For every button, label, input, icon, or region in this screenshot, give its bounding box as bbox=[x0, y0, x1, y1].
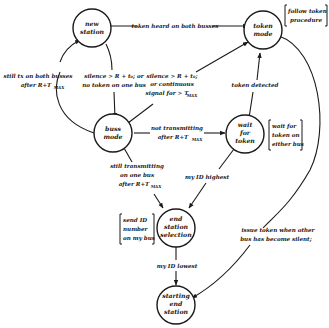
svg-text:token: token bbox=[235, 137, 255, 144]
edge-not-transmitting: not transmitting after R+T MAX bbox=[134, 125, 225, 142]
svg-text:token on: token on bbox=[272, 132, 300, 138]
node-end-station-selection: end station selection bbox=[157, 209, 195, 247]
svg-text:station: station bbox=[80, 28, 105, 35]
svg-text:for: for bbox=[239, 129, 251, 137]
edge-token-heard: token heard on both busses bbox=[101, 23, 248, 29]
node-buss-mode: buss mode bbox=[94, 114, 132, 152]
svg-text:send ID: send ID bbox=[123, 217, 147, 223]
svg-text:after R+T: after R+T bbox=[21, 82, 52, 89]
svg-text:new: new bbox=[85, 20, 99, 27]
svg-text:procedure: procedure bbox=[290, 17, 322, 24]
svg-text:still tx on both busses: still tx on both busses bbox=[4, 73, 74, 79]
node-token-mode: token mode bbox=[244, 11, 282, 49]
svg-text:wait for: wait for bbox=[272, 123, 297, 130]
svg-text:end: end bbox=[170, 215, 183, 222]
svg-text:after R+T: after R+T bbox=[119, 181, 150, 188]
svg-text:number: number bbox=[123, 226, 149, 232]
svg-text:MAX: MAX bbox=[53, 85, 66, 90]
svg-text:mode: mode bbox=[104, 133, 123, 140]
edge-still-tx-both-busses: still tx on both busses after R+T MAX bbox=[4, 40, 94, 133]
svg-text:my ID highest: my ID highest bbox=[185, 174, 229, 181]
node-wait-for-token: wait for token bbox=[226, 115, 264, 153]
state-diagram: token heard on both busses still tx on b… bbox=[0, 0, 329, 328]
svg-text:buss: buss bbox=[105, 125, 121, 132]
edge-issue-token: issue token when other bus has become si… bbox=[192, 36, 320, 298]
node-new-station: new station bbox=[73, 9, 111, 47]
svg-text:or continuous: or continuous bbox=[150, 81, 194, 87]
svg-text:MAX: MAX bbox=[191, 137, 204, 142]
node-starting-end-station: starting end station bbox=[157, 286, 195, 324]
svg-text:selection: selection bbox=[160, 231, 192, 238]
edge-silence-new-to-buss: silence > R + t₀; or no token on one bus bbox=[82, 44, 147, 118]
svg-text:token: token bbox=[253, 22, 273, 29]
svg-text:MAX: MAX bbox=[186, 93, 199, 98]
svg-text:token detected: token detected bbox=[232, 82, 279, 88]
svg-text:on one bus: on one bus bbox=[120, 172, 155, 178]
svg-text:end: end bbox=[170, 300, 183, 307]
edge-my-id-lowest: my ID lowest bbox=[157, 246, 198, 285]
edge-silence-buss-to-token: silence > R + t₀; or continuous signal f… bbox=[128, 42, 248, 123]
svg-text:on my bus: on my bus bbox=[123, 235, 156, 242]
note-send-id-number: send ID number on my bus bbox=[120, 214, 156, 244]
svg-text:MAX: MAX bbox=[150, 184, 163, 189]
edge-token-detected: token detected bbox=[232, 53, 279, 118]
svg-text:station: station bbox=[164, 223, 189, 230]
svg-text:mode: mode bbox=[254, 30, 273, 37]
svg-text:signal for > T: signal for > T bbox=[146, 90, 190, 97]
svg-text:silence > R + t₀;: silence > R + t₀; bbox=[147, 73, 198, 79]
svg-text:follow token: follow token bbox=[287, 8, 327, 15]
svg-text:my ID lowest: my ID lowest bbox=[157, 263, 198, 270]
svg-text:token heard on both busses: token heard on both busses bbox=[132, 23, 220, 29]
svg-text:not transmitting: not transmitting bbox=[151, 125, 203, 132]
svg-text:either bus: either bus bbox=[272, 141, 305, 147]
svg-text:bus has become silent;: bus has become silent; bbox=[240, 236, 312, 242]
svg-text:still transmitting: still transmitting bbox=[110, 163, 164, 170]
svg-text:issue token when other: issue token when other bbox=[241, 227, 315, 233]
svg-text:wait: wait bbox=[238, 121, 253, 128]
note-follow-token-procedure: follow token procedure bbox=[285, 5, 327, 26]
svg-text:starting: starting bbox=[162, 292, 190, 300]
svg-text:silence > R + t₀; or: silence > R + t₀; or bbox=[84, 73, 145, 79]
edge-still-transmitting-one-bus: still transmitting on one bus after R+T … bbox=[110, 148, 164, 208]
note-wait-token-either-bus: wait for token on either bus bbox=[269, 120, 305, 150]
svg-text:after R+T: after R+T bbox=[158, 134, 189, 141]
svg-text:no token on one bus: no token on one bus bbox=[82, 82, 147, 88]
edge-my-id-highest: my ID highest bbox=[185, 149, 234, 208]
svg-text:station: station bbox=[164, 308, 189, 315]
